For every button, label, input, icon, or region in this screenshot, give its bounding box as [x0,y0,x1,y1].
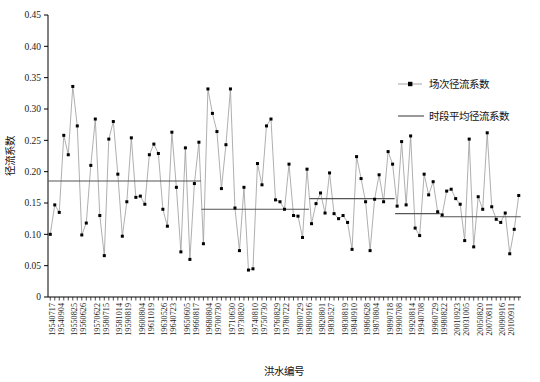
data-point-marker [220,187,223,190]
x-tick-label: 19980822 [440,303,449,336]
data-point-marker [436,210,439,213]
data-point-marker [134,196,137,199]
data-point-marker [513,228,516,231]
data-point-marker [490,205,493,208]
data-point-marker [292,214,295,217]
data-point-marker [148,153,151,156]
data-point-marker [396,205,399,208]
x-tick-label: 20050820 [476,303,485,336]
data-point-marker [301,236,304,239]
data-point-marker [360,177,363,180]
y-tick-label: 0.05 [24,261,41,271]
runoff-coefficient-chart: 00.050.100.150.200.250.300.350.400.45 19… [0,0,540,382]
x-tick-label: 19830527 [327,303,336,336]
y-tick-label: 0 [36,292,41,302]
data-point-marker [517,194,520,197]
y-tick-label: 0.15 [24,198,41,208]
data-point-marker [481,208,484,211]
data-point-marker [256,162,259,165]
data-point-marker [508,252,511,255]
data-point-marker [283,208,286,211]
x-tick-label: 20031005 [462,303,471,336]
data-point-marker [328,171,331,174]
data-point-marker [391,163,394,166]
data-point-marker [170,131,173,134]
data-point-marker [215,130,218,133]
x-tick-label: 19680804 [205,303,214,336]
data-point-marker [418,234,421,237]
data-point-marker [193,182,196,185]
legend-label: 时段平均径流系数 [429,110,510,122]
data-point-marker [423,173,426,176]
data-point-marker [206,87,209,90]
x-tick-label: 19550825 [70,303,79,336]
data-point-marker [463,239,466,242]
data-point-marker [265,124,268,127]
data-point-marker [477,195,480,198]
data-point-marker [130,136,133,139]
data-point-marker [306,168,309,171]
data-point-marker [409,134,412,137]
data-point-marker [76,124,79,127]
x-tick-label: 19800729 [296,303,305,336]
data-point-marker [85,222,88,225]
data-point-marker [112,120,115,123]
data-point-marker [251,267,254,270]
x-tick-label: 19750730 [260,303,269,336]
data-point-marker [445,190,448,193]
x-tick-label: 19570622 [93,303,102,336]
data-point-marker [184,146,187,149]
x-tick-label: 19900708 [395,303,404,336]
x-tick-label: 19960729 [431,303,440,336]
data-point-marker [495,218,498,221]
x-tick-label: 19870804 [372,303,381,336]
x-tick-label: 19660817 [192,303,201,336]
data-point-marker [319,191,322,194]
x-axis-title: 洪水编号 [264,365,304,377]
data-point-marker [297,215,300,218]
data-point-marker [400,140,403,143]
data-point-marker [333,212,336,215]
y-tick-label: 0.30 [24,104,41,114]
data-point-marker [229,87,232,90]
x-tick-label: 20090916 [498,303,507,336]
x-tick-label: 19860628 [363,303,372,336]
x-tick-label: 19540717 [48,303,57,336]
data-point-marker [161,208,164,211]
data-point-marker [274,198,277,201]
data-point-marker [472,245,475,248]
data-point-marker [71,85,74,88]
x-tick-label: 19581014 [115,303,124,336]
chart-canvas: 00.050.100.150.200.250.300.350.400.45 19… [0,0,540,382]
data-point-marker [157,152,160,155]
x-tick-label: 19800916 [305,303,314,336]
data-point-marker [107,138,110,141]
x-tick-label: 19540904 [57,303,66,336]
x-tick-label: 19580715 [102,303,111,336]
data-point-marker [67,153,70,156]
data-point-marker [58,211,61,214]
y-axis-title: 径流系数 [4,135,16,176]
x-tick-label: 19780722 [282,303,291,336]
legend-label: 场次径流系数 [429,78,490,90]
data-point-marker [94,118,97,121]
data-point-marker [450,188,453,191]
data-point-marker [80,233,83,236]
x-tick-label: 19650605 [183,303,192,336]
x-tick-label: 19940708 [417,303,426,336]
y-tick-label: 0.25 [24,136,41,146]
x-tick-label: 20070811 [485,303,494,335]
data-point-marker [468,138,471,141]
data-point-marker [49,233,52,236]
x-tick-label: 19760829 [273,303,282,336]
x-tick-label: 19630526 [160,303,169,336]
x-tick-label: 19890718 [386,303,395,336]
data-point-marker [441,213,444,216]
data-point-marker [116,173,119,176]
x-tick-label: 19710630 [228,303,237,336]
data-point-marker [310,222,313,225]
data-point-marker [62,134,65,137]
data-point-marker [143,203,146,206]
data-point-marker [432,180,435,183]
data-point-marker [364,200,367,203]
